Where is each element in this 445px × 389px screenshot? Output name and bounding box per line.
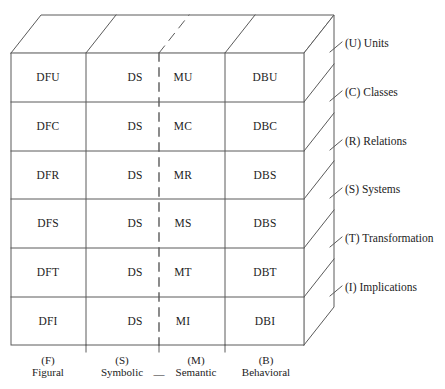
row-code-transformation: (T): [345, 232, 360, 244]
row-code-classes: (C): [345, 86, 360, 98]
row-name-implications: Implications: [359, 281, 417, 293]
column-name-behavioral: Behavioral: [242, 367, 290, 379]
column-name-semantic: Semantic: [176, 367, 217, 379]
row-label-units: (U) Units: [345, 37, 389, 49]
row-label-relations: (R) Relations: [345, 135, 407, 147]
row-code-relations: (R): [345, 135, 360, 147]
column-name-symbolic: Symbolic: [101, 367, 143, 379]
row-name-classes: Classes: [363, 86, 398, 98]
row-code-implications: (I): [345, 281, 357, 293]
figure-canvas: DFU DS MU DBU DFC DS MC DBC DFR DS MR DB…: [0, 0, 445, 389]
row-name-systems: Systems: [362, 183, 400, 195]
column-label-semantic: (M) Semantic: [176, 355, 217, 379]
row-label-classes: (C) Classes: [345, 86, 398, 98]
row-code-systems: (S): [345, 183, 359, 195]
row-label-transformation: (T) Transformation: [345, 232, 434, 244]
row-name-relations: Relations: [363, 135, 406, 147]
row-name-units: Units: [364, 37, 389, 49]
column-label-figural: (F) Figural: [32, 355, 64, 379]
row-code-units: (U): [345, 37, 361, 49]
column-label-symbolic: (S) Symbolic: [101, 355, 143, 379]
column-label-behavioral: (B) Behavioral: [242, 355, 290, 379]
row-name-transformation: Transformation: [362, 232, 433, 244]
cube-top-face: [11, 15, 334, 53]
row-label-systems: (S) Systems: [345, 183, 400, 195]
column-name-figural: Figural: [32, 367, 64, 379]
row-label-implications: (I) Implications: [345, 281, 417, 293]
column-separator-dash: —: [154, 368, 165, 380]
